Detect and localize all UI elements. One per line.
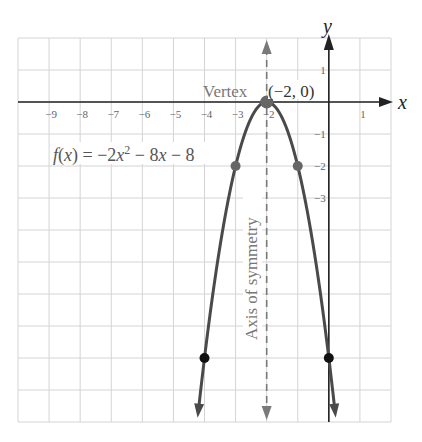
svg-text:f(x) = −2x2 − 8x − 8: f(x) = −2x2 − 8x − 8 <box>53 143 195 166</box>
svg-text:−9: −9 <box>45 108 57 120</box>
axis-of-symmetry-label: Axis of symmetry <box>242 217 261 340</box>
data-point <box>324 353 334 363</box>
svg-text:−3: −3 <box>314 192 326 204</box>
function-label: f(x) = −2x2 − 8x − 8 <box>50 142 220 166</box>
svg-text:−8: −8 <box>76 108 88 120</box>
svg-text:1: 1 <box>360 108 366 120</box>
y-axis-label: y <box>321 15 332 38</box>
svg-text:−4: −4 <box>201 108 213 120</box>
svg-text:−3: −3 <box>232 108 244 120</box>
vertex-coordinates: (−2, 0) <box>268 82 314 101</box>
data-point <box>293 161 303 171</box>
svg-text:−6: −6 <box>138 108 150 120</box>
svg-text:−2: −2 <box>314 160 326 172</box>
svg-text:1: 1 <box>320 64 326 76</box>
data-point <box>231 161 241 171</box>
parabola-chart: −9−8−7−6−5−4−3−211−1−2−3 x y Vertex (−2,… <box>0 0 422 442</box>
svg-text:−1: −1 <box>314 128 326 140</box>
data-point <box>200 353 210 363</box>
svg-text:−7: −7 <box>107 108 119 120</box>
svg-text:−5: −5 <box>170 108 182 120</box>
svg-text:−2: −2 <box>263 108 275 120</box>
x-axis-label: x <box>397 91 407 113</box>
vertex-word: Vertex <box>203 82 248 101</box>
